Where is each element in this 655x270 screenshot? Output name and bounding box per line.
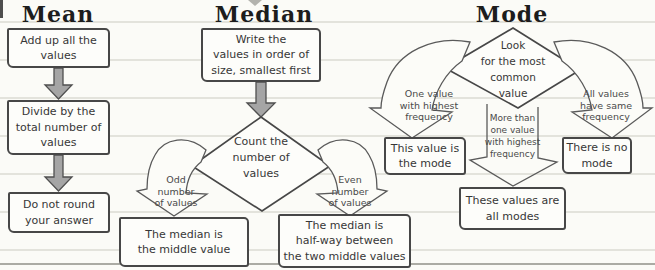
median-even-result-box: The median is half-way between the two m… (278, 214, 411, 268)
median-odd-result-box: The median is the middle value (119, 217, 249, 267)
mode-same-freq-result-box: There is no mode (562, 137, 632, 174)
mean-step2-box: Divide by the total number of values (7, 100, 110, 155)
median-step1-box: Write the values in order of size, small… (201, 28, 321, 82)
mode-one-value-result-box: This value is the mode (384, 137, 466, 175)
mode-column-title: Mode (462, 3, 562, 25)
median-step1-text: Write the values in order of size, small… (211, 32, 310, 79)
median-even-branch-label: Even number of values (320, 174, 380, 209)
mean-step3-text: Do not round your answer (23, 197, 95, 228)
median-odd-branch-label: Odd number of values (146, 174, 206, 209)
median-column-title: Median (211, 3, 317, 25)
median-odd-result-text: The median is the middle value (138, 227, 231, 258)
down-arrow-icon (45, 68, 72, 99)
median-decision-text: Count the number of values (196, 134, 326, 182)
mean-step2-text: Divide by the total number of values (16, 104, 102, 151)
mode-one-value-branch-label: One value with highest frequency (398, 88, 460, 123)
mean-step3-box: Do not round your answer (8, 192, 110, 233)
down-arrow-icon (247, 82, 275, 117)
mean-step1-box: Add up all the values (7, 28, 110, 68)
mode-more-than-result-text: These values are all modes (466, 193, 560, 224)
mode-more-than-branch-label: More than one value with highest frequen… (480, 112, 545, 160)
mode-decision-text: Look for the most common value (448, 37, 578, 101)
mode-same-freq-result-text: There is no mode (567, 140, 628, 171)
scan-edge-artifact (0, 0, 3, 18)
mode-one-value-result-text: This value is the mode (391, 141, 459, 172)
median-even-result-text: The median is half-way between the two m… (284, 218, 406, 265)
mode-more-than-result-box: These values are all modes (459, 187, 566, 230)
down-arrow-icon (45, 155, 72, 191)
mean-column-title: Mean (8, 3, 108, 25)
mean-step1-text: Add up all the values (20, 33, 97, 64)
mode-same-freq-branch-label: All values have same frequency (574, 88, 638, 123)
flowchart-averages: Mean Add up all the values Divide by the… (0, 0, 655, 270)
